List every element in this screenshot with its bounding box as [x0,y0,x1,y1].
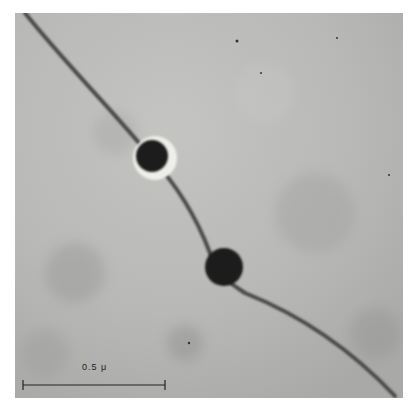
scale-bar-label: 0.5 μ [82,362,107,372]
particle-upper [136,140,168,172]
micrograph-graphic [15,13,403,398]
micrograph-image [15,13,403,398]
particle-lower [205,248,243,286]
